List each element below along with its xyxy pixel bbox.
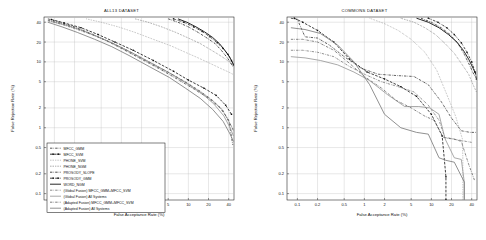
svg-text:1: 1 xyxy=(39,125,42,130)
svg-text:False Rejection Rate (%): False Rejection Rate (%) xyxy=(10,85,15,132)
curve-marker xyxy=(188,79,189,80)
curve-marker xyxy=(445,199,446,200)
legend-label: PROSODY_GMM xyxy=(64,177,92,181)
svg-text:0.1: 0.1 xyxy=(278,191,284,196)
curve-marker xyxy=(431,114,432,115)
svg-text:1: 1 xyxy=(282,125,285,130)
plot-area-right: 0.10.20.51251020404020105210.50.20.1Fals… xyxy=(243,0,486,240)
plot-title-left: ALL13 DATASET xyxy=(0,8,243,13)
legend-label: (Global Fusion) All Systems xyxy=(64,195,107,199)
curve-marker xyxy=(349,58,350,59)
curve-marker xyxy=(132,50,133,51)
svg-text:0.2: 0.2 xyxy=(278,171,284,176)
svg-text:0.1: 0.1 xyxy=(35,191,41,196)
curve-marker xyxy=(466,52,467,53)
svg-text:False Acceptance Rate (%): False Acceptance Rate (%) xyxy=(357,212,408,217)
svg-text:40: 40 xyxy=(226,202,231,207)
curve-marker xyxy=(461,42,462,43)
svg-text:40: 40 xyxy=(37,20,42,25)
svg-text:5: 5 xyxy=(282,79,285,84)
curve-marker xyxy=(302,22,303,23)
curve-marker xyxy=(400,86,401,87)
curve-marker xyxy=(51,19,52,20)
svg-text:2: 2 xyxy=(383,202,386,207)
svg-text:10: 10 xyxy=(429,202,434,207)
panel-right: COMMONS DATASET 0.10.20.5125102040402010… xyxy=(243,0,486,240)
svg-text:20: 20 xyxy=(206,202,211,207)
svg-text:5: 5 xyxy=(410,202,413,207)
svg-text:5: 5 xyxy=(39,79,42,84)
legend-label: MFCC_GMM xyxy=(64,147,85,151)
curve-marker xyxy=(203,87,204,88)
panel-left: ALL13 DATASET 0.10.20.512510204040201052… xyxy=(0,0,243,240)
svg-text:20: 20 xyxy=(280,40,285,45)
svg-text:40: 40 xyxy=(469,202,474,207)
legend-marker xyxy=(57,153,59,155)
legend-marker xyxy=(52,153,54,155)
curve-marker xyxy=(153,60,154,61)
legend-label: PHONE_NGM xyxy=(64,165,87,169)
curve-marker xyxy=(366,71,367,72)
svg-text:0.5: 0.5 xyxy=(278,145,284,150)
svg-text:10: 10 xyxy=(37,59,42,64)
curve-marker xyxy=(63,22,64,23)
svg-text:0.5: 0.5 xyxy=(35,145,41,150)
curve-marker xyxy=(445,176,446,177)
plot-area-left: 0.10.20.51251020404020105210.50.20.1Fals… xyxy=(0,0,243,240)
svg-text:0.1: 0.1 xyxy=(295,202,301,207)
svg-text:5: 5 xyxy=(167,202,170,207)
det-curves-figure: ALL13 DATASET 0.10.20.512510204040201052… xyxy=(0,0,486,240)
svg-text:10: 10 xyxy=(280,59,285,64)
legend-label: PHONE_SVM xyxy=(64,159,86,163)
svg-text:False Rejection Rate (%): False Rejection Rate (%) xyxy=(253,85,258,132)
curve-marker xyxy=(437,22,438,23)
curve-marker xyxy=(183,22,184,23)
curve-marker xyxy=(173,18,174,19)
curve-marker xyxy=(428,18,429,19)
curve-marker xyxy=(446,27,447,28)
legend-label: (Adapted Fusion) All Systems xyxy=(64,207,110,211)
curve-marker xyxy=(476,78,477,79)
curve-marker xyxy=(80,27,81,28)
curve-marker xyxy=(471,61,472,62)
curve-marker xyxy=(173,71,174,72)
legend-marker xyxy=(57,177,59,179)
curve-marker xyxy=(454,34,455,35)
curve-marker xyxy=(233,64,234,65)
curve-marker xyxy=(97,34,98,35)
curve-marker xyxy=(384,78,385,79)
curve-marker xyxy=(114,41,115,42)
svg-text:0.2: 0.2 xyxy=(35,171,41,176)
svg-text:0.5: 0.5 xyxy=(341,202,347,207)
curve-marker xyxy=(317,30,318,31)
legend-label: (Global Fusion) MFCC_GMM+MFCC_SVM xyxy=(64,189,131,193)
curve-marker xyxy=(231,114,232,115)
svg-text:20: 20 xyxy=(37,40,42,45)
svg-text:0.2: 0.2 xyxy=(315,202,321,207)
svg-text:2: 2 xyxy=(282,105,285,110)
svg-text:20: 20 xyxy=(449,202,454,207)
legend-marker xyxy=(52,177,54,179)
curve-marker xyxy=(416,96,417,97)
svg-text:40: 40 xyxy=(280,20,285,25)
curve-marker xyxy=(215,95,216,96)
legend-label: MFCC_SVM xyxy=(64,153,84,157)
legend-label: PROSODY_SLOPE xyxy=(64,171,96,175)
legend-label: (Adapted Fusion) MFCC_GMM+MFCC_SVM xyxy=(64,201,134,205)
legend-item: (Adapted Fusion) MFCC_GMM+MFCC_SVM xyxy=(50,201,134,205)
curve-marker xyxy=(225,104,226,105)
svg-text:10: 10 xyxy=(186,202,191,207)
legend: MFCC_GMMMFCC_SVMPHONE_SVMPHONE_NGMPROSOD… xyxy=(47,143,165,213)
svg-text:1: 1 xyxy=(363,202,366,207)
legend-label: WORD_NGM xyxy=(64,183,85,187)
plot-title-right: COMMONS DATASET xyxy=(243,8,486,13)
svg-text:2: 2 xyxy=(39,105,42,110)
curve-marker xyxy=(294,18,295,19)
